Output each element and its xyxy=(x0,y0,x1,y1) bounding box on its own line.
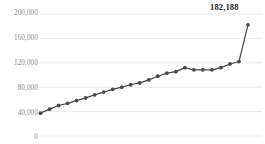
data-point xyxy=(165,71,169,75)
data-point xyxy=(219,66,223,70)
data-point xyxy=(129,83,133,87)
data-point xyxy=(192,68,196,72)
data-point xyxy=(237,60,241,64)
data-point xyxy=(93,93,97,97)
data-point xyxy=(102,90,106,94)
line-chart: 200,000 160,000 120,000 80,000 40,000 0 … xyxy=(0,0,265,144)
data-point xyxy=(75,99,79,103)
ytick-label-160000: 160,000 xyxy=(1,34,38,42)
data-point xyxy=(120,85,124,89)
data-point xyxy=(138,81,142,85)
ytick-label-40000: 40,000 xyxy=(1,109,38,117)
ytick-label-200000: 200,000 xyxy=(1,9,38,17)
ytick-label-80000: 80,000 xyxy=(1,84,38,92)
chart-plot-area xyxy=(0,0,265,144)
series-markers xyxy=(39,23,250,115)
ytick-label-0: 0 xyxy=(1,133,38,141)
data-point xyxy=(84,96,88,100)
data-point xyxy=(228,62,232,66)
data-point xyxy=(39,111,43,115)
gridlines xyxy=(41,14,263,136)
data-point xyxy=(156,74,160,78)
ytick-label-120000: 120,000 xyxy=(1,59,38,67)
data-point xyxy=(147,78,151,82)
data-point xyxy=(66,101,70,105)
data-point xyxy=(183,66,187,70)
data-point xyxy=(174,70,178,74)
data-point xyxy=(57,104,61,108)
data-label-max: 182,188 xyxy=(210,2,239,12)
data-point xyxy=(48,107,52,111)
data-point xyxy=(111,87,115,91)
data-point xyxy=(210,68,214,72)
data-point xyxy=(246,23,250,27)
data-point xyxy=(201,68,205,72)
